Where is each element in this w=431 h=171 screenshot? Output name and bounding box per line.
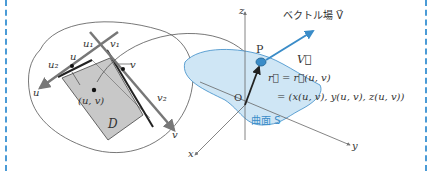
label-vector-field: ベクトル場 V⃗ xyxy=(283,9,343,21)
label-u2: u₂ xyxy=(48,59,58,70)
label-u-axis: u xyxy=(33,87,39,98)
label-u: u xyxy=(70,51,76,62)
label-point-uv: (u, v) xyxy=(78,95,104,106)
label-r-equation-2: = (x(u, v), y(u, v), z(u, v)) xyxy=(277,91,404,102)
label-z: z xyxy=(238,5,245,16)
label-v1: v₁ xyxy=(110,38,120,49)
label-r-equation-1: r⃗ = r⃗(u, v) xyxy=(268,72,331,83)
x-axis xyxy=(195,105,245,155)
surface-integral-diagram: u₁ v₁ u₂ u v v₂ (u, v) D u v z y x O P V… xyxy=(0,0,431,171)
label-v: v xyxy=(130,59,136,70)
label-p: P xyxy=(256,43,264,56)
point-p xyxy=(256,58,266,66)
label-y: y xyxy=(351,140,358,151)
label-origin: O xyxy=(234,92,242,103)
label-v-axis: v xyxy=(172,129,178,140)
label-domain-d: D xyxy=(107,117,118,131)
label-x: x xyxy=(188,148,194,159)
label-surface-s: 曲面 S xyxy=(251,115,281,126)
label-u1: u₁ xyxy=(83,38,93,49)
label-vector-v: V⃗ xyxy=(297,53,312,66)
label-v2: v₂ xyxy=(157,92,167,103)
